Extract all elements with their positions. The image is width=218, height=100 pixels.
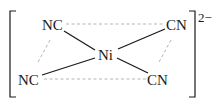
central-atom-label: Ni [98,47,113,63]
left-bracket [10,11,16,97]
right-bracket [189,11,195,97]
plane-edge-right [158,40,171,64]
plane-edge-left [37,40,50,64]
bond-top-right [118,29,165,49]
charge-superscript: 2− [198,10,212,25]
bond-bottom-left [42,58,95,75]
bond-bottom-right [117,58,148,73]
ligand-top-left-label: NC [42,17,63,33]
bond-top-left [64,31,95,50]
complex-diagram: NC CN Ni NC CN 2− [0,0,218,100]
ligand-bottom-right-label: CN [147,72,168,88]
ligand-bottom-left-label: NC [18,72,39,88]
ligand-top-right-label: CN [166,17,187,33]
